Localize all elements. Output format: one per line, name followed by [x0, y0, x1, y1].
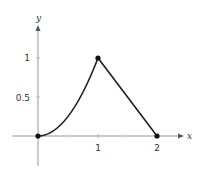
y-axis-label: y — [35, 13, 42, 23]
chart: 1 2 0.5 1 x y — [0, 0, 204, 177]
x-axis-label: x — [187, 131, 192, 141]
x-tick-label: 1 — [95, 143, 101, 153]
point-0-0 — [35, 133, 40, 138]
y-tick-label: 1 — [24, 53, 30, 63]
curve — [38, 58, 157, 136]
x-axis-arrow-icon — [178, 134, 184, 139]
y-axis-arrow-icon — [36, 25, 41, 31]
point-1-1 — [95, 55, 100, 60]
point-2-0 — [154, 133, 159, 138]
x-tick-label: 2 — [154, 143, 160, 153]
y-tick-label: 0.5 — [16, 93, 30, 103]
